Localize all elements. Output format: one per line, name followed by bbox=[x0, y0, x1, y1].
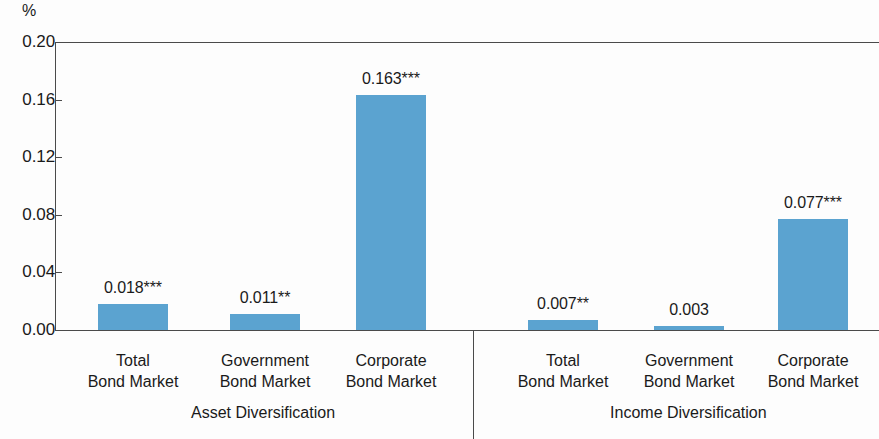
y-axis-tick-mark bbox=[55, 100, 62, 101]
bar bbox=[356, 95, 426, 330]
group-label: Asset Diversification bbox=[191, 404, 335, 422]
category-label-line-2: Bond Market bbox=[644, 371, 735, 392]
x-axis-category-label: GovernmentBond Market bbox=[644, 350, 735, 392]
group-label: Income Diversification bbox=[610, 404, 767, 422]
y-axis-tick-label: 0.16 bbox=[3, 90, 55, 110]
category-label-line-1: Total bbox=[518, 350, 609, 371]
x-axis-category-label: TotalBond Market bbox=[518, 350, 609, 392]
bar bbox=[98, 304, 168, 330]
bar bbox=[778, 219, 848, 330]
y-axis-tick-mark bbox=[55, 215, 62, 216]
category-label-line-2: Bond Market bbox=[88, 371, 179, 392]
y-axis-tick-label: 0.20 bbox=[3, 32, 55, 52]
y-axis-tick-mark bbox=[55, 272, 62, 273]
category-label-line-2: Bond Market bbox=[220, 371, 311, 392]
y-axis-tick-label: 0.00 bbox=[3, 320, 55, 340]
y-axis-line bbox=[55, 42, 56, 331]
category-label-line-1: Corporate bbox=[768, 350, 859, 371]
y-axis-tick-label: 0.08 bbox=[3, 205, 55, 225]
bar-value-label: 0.011** bbox=[240, 289, 291, 307]
bar-chart-figure: % 0.200.160.120.080.040.00 0.018***0.011… bbox=[0, 0, 879, 439]
bar-value-label: 0.003 bbox=[669, 301, 709, 319]
category-label-line-2: Bond Market bbox=[518, 371, 609, 392]
y-axis-tick-label: 0.04 bbox=[3, 262, 55, 282]
bar-value-label: 0.077*** bbox=[784, 194, 842, 212]
category-label-line-1: Corporate bbox=[346, 350, 437, 371]
x-axis-category-label: TotalBond Market bbox=[88, 350, 179, 392]
bar-value-label: 0.163*** bbox=[362, 70, 420, 88]
bar bbox=[230, 314, 300, 330]
bar bbox=[528, 320, 598, 330]
bar bbox=[654, 326, 724, 330]
x-axis-baseline bbox=[55, 330, 879, 331]
x-axis-category-label: CorporateBond Market bbox=[768, 350, 859, 392]
category-label-line-2: Bond Market bbox=[346, 371, 437, 392]
x-axis-category-label: CorporateBond Market bbox=[346, 350, 437, 392]
category-label-line-2: Bond Market bbox=[768, 371, 859, 392]
y-axis-tick-mark bbox=[55, 157, 62, 158]
bar-value-label: 0.007** bbox=[537, 295, 589, 313]
y-axis-tick-label: 0.12 bbox=[3, 147, 55, 167]
bar-value-label: 0.018*** bbox=[104, 279, 162, 297]
category-label-line-1: Government bbox=[644, 350, 735, 371]
x-axis-category-label: GovernmentBond Market bbox=[220, 350, 311, 392]
category-label-line-1: Government bbox=[220, 350, 311, 371]
category-label-line-1: Total bbox=[88, 350, 179, 371]
group-separator-line bbox=[473, 331, 474, 439]
y-axis-tick-labels: 0.200.160.120.080.040.00 bbox=[0, 0, 55, 439]
plot-top-border bbox=[55, 42, 879, 43]
